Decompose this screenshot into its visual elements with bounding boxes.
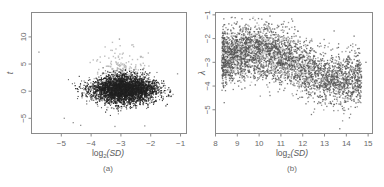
x-tick-label: 14 (342, 139, 351, 148)
x-tick-label: −5 (57, 139, 67, 148)
y-axis-label-a: t (5, 71, 15, 74)
panel-label-a: (a) (103, 164, 113, 173)
x-tick-label: 8 (213, 139, 218, 148)
x-tick-label: −2 (146, 139, 156, 148)
x-tick-label: 15 (364, 139, 373, 148)
x-tick-label: −3 (116, 139, 126, 148)
panel-label-b: (b) (287, 164, 297, 173)
y-tick-label: 0 (19, 88, 28, 93)
x-tick-label: 12 (298, 139, 307, 148)
y-tick-label: −2 (203, 33, 212, 43)
y-tick-label: 5 (19, 61, 28, 66)
x-axis-label-b: log2(SD) (276, 148, 308, 159)
x-tick-label: −4 (87, 139, 97, 148)
x-tick-label: 13 (320, 139, 329, 148)
x-axis-a: −5−4−3−2−1 (57, 134, 186, 148)
scatter-points-a (38, 38, 178, 127)
y-axis-label-b: λ (197, 71, 207, 76)
panel-a: −5−4−3−2−1 −50510 log2(SD) t (a) (5, 13, 187, 174)
x-tick-label: 9 (235, 139, 240, 148)
x-axis-b: 89101112131415 (213, 134, 373, 148)
y-tick-label: −4 (203, 81, 212, 91)
y-tick-label: −3 (203, 57, 212, 67)
x-tick-label: 10 (255, 139, 264, 148)
y-tick-label: −1 (203, 10, 212, 20)
y-axis-a: −50510 (19, 32, 32, 123)
x-tick-label: 11 (277, 139, 286, 148)
y-tick-label: 10 (19, 32, 28, 41)
panel-b: 89101112131415 −5−4−3−2−1 log2(SD) λ (b) (197, 10, 373, 173)
x-axis-label-a: log2(SD) (92, 148, 124, 159)
y-axis-b: −5−4−3−2−1 (203, 10, 216, 115)
y-tick-label: −5 (203, 105, 212, 115)
scatter-points-b (221, 15, 366, 129)
figure: −5−4−3−2−1 −50510 log2(SD) t (a) 8910111… (0, 0, 384, 187)
y-tick-label: −5 (19, 113, 28, 123)
x-tick-label: −1 (176, 139, 186, 148)
